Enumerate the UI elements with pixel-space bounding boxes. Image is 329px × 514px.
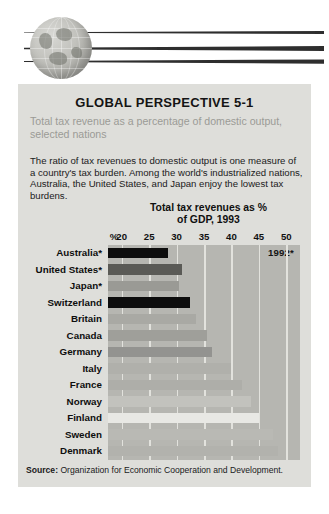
- bar-rows: Australia*United States*Japan*Switzerlan…: [18, 245, 311, 460]
- bar: [108, 396, 251, 407]
- bar: [108, 413, 259, 424]
- bar-row: Japan*: [18, 278, 311, 295]
- x-axis-tick-label: 50: [275, 231, 297, 242]
- bar-row-label: Finland: [18, 412, 102, 423]
- x-axis-ticks: %20253035404550: [18, 231, 311, 243]
- bar-row: Denmark: [18, 443, 311, 460]
- bar-row: Norway: [18, 394, 311, 411]
- bar: [108, 281, 179, 292]
- bar-row-label: Norway: [18, 396, 102, 407]
- x-axis-tick-label: 45: [248, 231, 270, 242]
- banner: [0, 0, 329, 84]
- bar-row-label: Canada: [18, 330, 102, 341]
- source-text: Organization for Economic Cooperation an…: [60, 465, 283, 475]
- page-title: GLOBAL PERSPECTIVE 5-1: [18, 95, 311, 110]
- bar-row: Italy: [18, 361, 311, 378]
- bar-row-label: Sweden: [18, 429, 102, 440]
- figure-subtitle: Total tax revenue as a percentage of dom…: [30, 115, 302, 141]
- bar-row-label: France: [18, 379, 102, 390]
- bar-row-label: Germany: [18, 346, 102, 357]
- chart-title-line-1: Total tax revenues as %: [106, 202, 311, 214]
- x-axis-tick-label: 40: [220, 231, 242, 242]
- bar-row: United States*: [18, 262, 311, 279]
- bar-row-label: Australia*: [18, 247, 102, 258]
- bar: [108, 380, 242, 391]
- chart-title-line-2: of GDP, 1993: [106, 214, 311, 226]
- bar-row: Britain: [18, 311, 311, 328]
- bar: [108, 264, 182, 275]
- source-note: Source: Organization for Economic Cooper…: [26, 465, 306, 475]
- bar-row: Switzerland: [18, 295, 311, 312]
- x-axis-tick-label: 20: [111, 231, 133, 242]
- bar-row: France: [18, 377, 311, 394]
- bar-row-label: Italy: [18, 363, 102, 374]
- x-axis-tick-label: 25: [138, 231, 160, 242]
- bar: [108, 330, 207, 341]
- bar: [108, 297, 190, 308]
- bar-row-label: Japan*: [18, 280, 102, 291]
- source-label: Source:: [26, 465, 58, 475]
- bar: [108, 248, 168, 259]
- bar-row: Sweden: [18, 427, 311, 444]
- figure-card: GLOBAL PERSPECTIVE 5-1 Total tax revenue…: [18, 84, 311, 487]
- bar: [108, 314, 196, 325]
- bar-row: Finland: [18, 410, 311, 427]
- x-axis-tick-label: 35: [193, 231, 215, 242]
- bar: [108, 429, 273, 440]
- chart-title: Total tax revenues as % of GDP, 1993: [106, 202, 311, 225]
- bar-row: Germany: [18, 344, 311, 361]
- figure-body-text: The ratio of tax revenues to domestic ou…: [30, 155, 304, 201]
- bar-row-label: Denmark: [18, 445, 102, 456]
- globe-icon: [30, 17, 92, 79]
- bar-row: Australia*: [18, 245, 311, 262]
- bar-row: Canada: [18, 328, 311, 345]
- bar: [108, 363, 231, 374]
- x-axis-tick-label: 30: [166, 231, 188, 242]
- bar-row-label: United States*: [18, 264, 102, 275]
- bar-row-label: Switzerland: [18, 297, 102, 308]
- bar-row-label: Britain: [18, 313, 102, 324]
- bar: [108, 347, 212, 358]
- bar: [108, 446, 278, 457]
- global-perspective-figure: GLOBAL PERSPECTIVE 5-1 Total tax revenue…: [0, 0, 329, 514]
